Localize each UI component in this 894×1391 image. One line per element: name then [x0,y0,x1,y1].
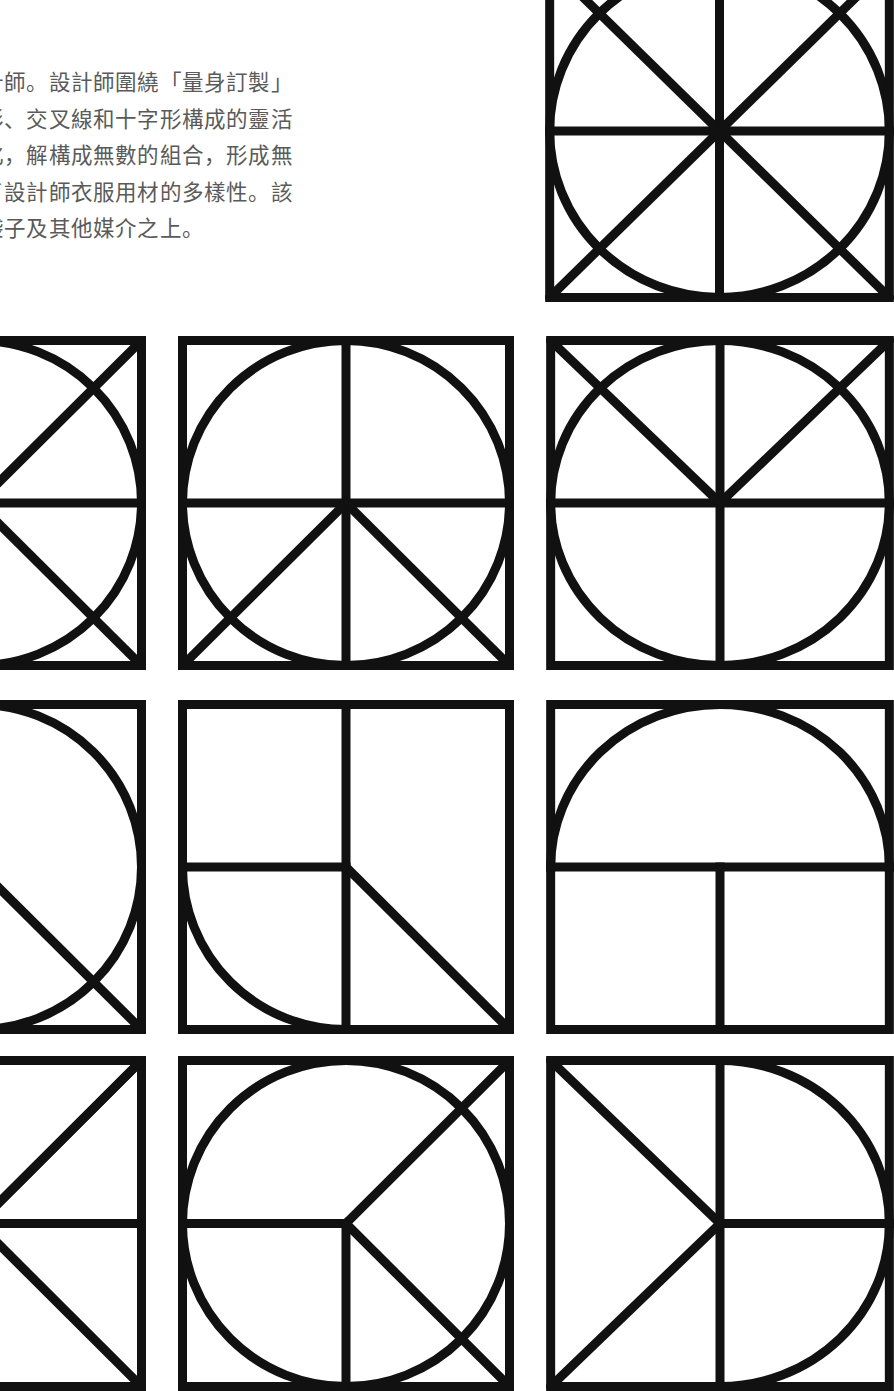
inscribed-circle [0,704,142,1029]
tile-r2c3 [546,700,894,1034]
tile-r1c2-graphic [178,336,514,670]
tile-r3c1 [0,1056,146,1391]
tile-r1c1-graphic [0,336,146,670]
tile-r3c1-graphic [0,1056,146,1391]
square-border [0,704,142,1029]
tile-r3c2 [178,1056,514,1391]
center-to-bottom-right [346,867,510,1030]
tile-r1c3 [546,336,894,670]
tile-r2c3-graphic [546,700,894,1034]
tile-r3c3-graphic [546,1056,894,1391]
tile-r1c3-graphic [546,336,894,670]
quarter-arc-bottom-left [183,867,347,1030]
tile-top-right-graphic [545,0,894,302]
tile-r3c2-graphic [178,1056,514,1391]
center-to-top-left [551,1060,720,1223]
tile-r2c1-graphic [0,700,146,1034]
tile-r2c2-graphic [178,700,514,1034]
diagonal-tl-br [0,704,142,1029]
article-body-text: 計師。設計師圍繞「量身訂製」 形、交叉線和十字形構成的靈活 化，解構成無數的組合… [0,0,312,321]
tile-r1c1 [0,336,146,670]
article-paragraph: 計師。設計師圍繞「量身訂製」 形、交叉線和十字形構成的靈活 化，解構成無數的組合… [0,65,312,248]
center-to-bottom-left [551,1224,720,1387]
semicircle-top [551,704,890,867]
artwork-canvas: 計師。設計師圍繞「量身訂製」 形、交叉線和十字形構成的靈活 化，解構成無數的組合… [0,0,894,1391]
diagonal-tr-upper [0,1060,142,1223]
tile-r3c3 [546,1056,894,1391]
tile-r1c2 [178,336,514,670]
tile-top-right [545,0,894,302]
tile-r2c2 [178,700,514,1034]
tile-r2c1 [0,700,146,1034]
